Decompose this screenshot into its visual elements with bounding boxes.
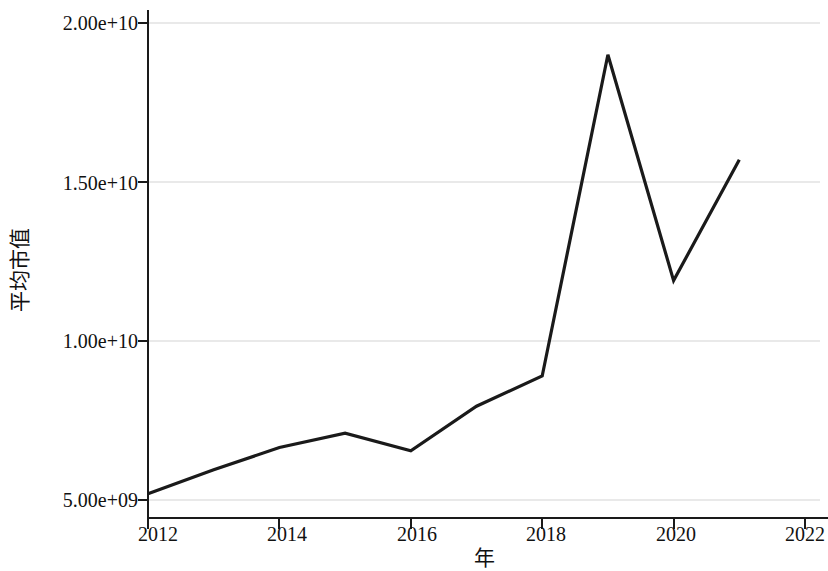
chart-container: 2.00e+10 1.50e+10 1.00e+10 5.00e+09 2012… bbox=[0, 0, 828, 571]
data-series-line bbox=[148, 55, 739, 494]
xtick-label-2014: 2014 bbox=[247, 523, 327, 546]
xtick-label-2018: 2018 bbox=[506, 523, 586, 546]
ytick-label-1_5e10: 1.50e+10 bbox=[18, 172, 138, 195]
axis-ticks bbox=[138, 23, 805, 529]
x-axis-title: 年 bbox=[454, 541, 514, 571]
ytick-label-1e10: 1.00e+10 bbox=[18, 330, 138, 353]
xtick-label-2012: 2012 bbox=[118, 523, 198, 546]
gridlines bbox=[148, 23, 820, 500]
ytick-label-2e10: 2.00e+10 bbox=[18, 12, 138, 35]
y-axis-title: 平均市值 bbox=[3, 210, 33, 330]
axis-spines bbox=[148, 10, 828, 518]
ytick-label-5e09: 5.00e+09 bbox=[18, 489, 138, 512]
xtick-label-2022: 2022 bbox=[765, 523, 828, 546]
xtick-label-2020: 2020 bbox=[636, 523, 716, 546]
xtick-label-2016: 2016 bbox=[377, 523, 457, 546]
series-line-average-market-value bbox=[148, 55, 739, 494]
chart-plot-svg bbox=[0, 0, 828, 571]
